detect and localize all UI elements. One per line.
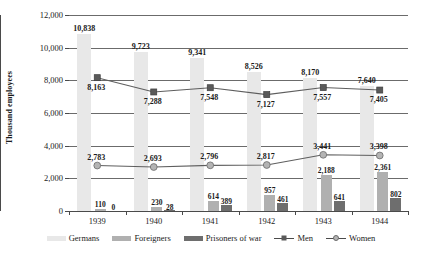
x-axis-tick [239, 211, 240, 215]
chart-figure: Thousand employees 02,0004,0006,0008,000… [0, 0, 422, 264]
x-axis-tick [126, 211, 127, 215]
legend-label: Men [297, 233, 313, 243]
value-label: 110 [95, 200, 106, 209]
x-axis-label-1942: 1942 [242, 216, 292, 226]
bar-germans-1940 [134, 52, 148, 211]
value-label: 957 [264, 186, 275, 195]
value-label: 7,405 [370, 95, 388, 104]
y-axis-tick-label: 8,000 [44, 75, 63, 85]
y-axis-tick-label: 2,000 [44, 173, 63, 183]
legend-swatch-icon [112, 236, 131, 241]
value-label: 230 [151, 198, 162, 207]
value-label: 7,127 [257, 100, 275, 109]
x-axis-label-1944: 1944 [355, 216, 405, 226]
y-axis-title: Thousand employees [1, 0, 19, 215]
bar-foreigners-1941 [208, 201, 219, 211]
legend-marker-icon [282, 236, 287, 241]
value-label: 461 [277, 195, 288, 204]
legend-swatch-icon [47, 236, 66, 241]
value-label: 389 [221, 197, 232, 206]
value-label: 2,361 [374, 163, 391, 172]
legend-line-icon [326, 235, 346, 242]
bar-prisoners-of-war-1944 [390, 198, 401, 211]
bar-prisoners-of-war-1943 [334, 201, 345, 211]
x-axis-tick [408, 211, 409, 215]
legend-swatch-icon [184, 236, 203, 241]
x-axis-tick [352, 211, 353, 215]
bar-foreigners-1943 [321, 175, 332, 211]
value-label: 10,838 [73, 24, 95, 33]
value-label: 3,398 [370, 142, 388, 151]
value-label: 28 [166, 203, 174, 212]
value-label: 641 [334, 193, 345, 202]
legend-item-foreigners[interactable]: Foreigners [112, 233, 170, 243]
y-axis-tick-label: 12,000 [40, 10, 63, 20]
legend-label: Prisoners of war [206, 233, 262, 243]
value-label: 8,170 [301, 68, 319, 77]
bar-foreigners-1940 [151, 207, 162, 211]
legend-label: Women [349, 233, 375, 243]
legend-label: Germans [69, 233, 100, 243]
value-label: 7,288 [144, 97, 162, 106]
y-axis-line [0, 15, 1, 211]
y-axis-title-text: Thousand employees [6, 71, 15, 144]
x-axis-label-1940: 1940 [129, 216, 179, 226]
value-label: 7,548 [200, 93, 218, 102]
y-axis-tick-label: 6,000 [44, 108, 63, 118]
chart-legend: GermansForeignersPrisoners of warMenWome… [0, 233, 422, 243]
legend-marker-icon [333, 235, 339, 241]
value-label: 9,723 [132, 42, 150, 51]
legend-item-men[interactable]: Men [274, 233, 313, 243]
bar-germans-1942 [247, 72, 261, 211]
bar-foreigners-1942 [264, 195, 275, 211]
bar-germans-1941 [190, 58, 204, 211]
value-label: 2,783 [87, 153, 105, 162]
y-axis-tick-label: 0 [59, 206, 63, 216]
value-label: 0 [111, 203, 115, 212]
value-label: 8,526 [245, 62, 263, 71]
value-label: 2,693 [144, 154, 162, 163]
x-axis-tick [69, 211, 70, 215]
legend-item-prisoners-of-war[interactable]: Prisoners of war [184, 233, 262, 243]
value-label: 2,188 [318, 166, 335, 175]
x-axis-label-1939: 1939 [72, 216, 122, 226]
value-label: 8,163 [87, 83, 105, 92]
value-label: 2,796 [200, 152, 218, 161]
bar-germans-1939 [77, 34, 91, 211]
x-axis-tick [295, 211, 296, 215]
x-axis-label-1943: 1943 [298, 216, 348, 226]
value-label: 3,441 [313, 142, 331, 151]
legend-label: Foreigners [134, 233, 170, 243]
legend-item-germans[interactable]: Germans [47, 233, 100, 243]
value-label: 7,640 [358, 76, 376, 85]
y-axis-tick-label: 4,000 [44, 141, 63, 151]
x-axis-tick [182, 211, 183, 215]
value-label: 2,817 [257, 152, 275, 161]
value-label: 614 [208, 192, 219, 201]
value-label: 7,557 [313, 93, 331, 102]
y-axis-tick-label: 10,000 [40, 43, 63, 53]
bar-foreigners-1939 [95, 209, 106, 211]
value-label: 802 [390, 190, 401, 199]
bar-prisoners-of-war-1942 [277, 203, 288, 211]
legend-item-women[interactable]: Women [326, 233, 375, 243]
value-label: 9,341 [188, 48, 206, 57]
x-axis-label-1941: 1941 [185, 216, 235, 226]
bar-series-layer [69, 15, 408, 211]
legend-line-icon [274, 235, 294, 242]
bar-foreigners-1944 [377, 172, 388, 211]
